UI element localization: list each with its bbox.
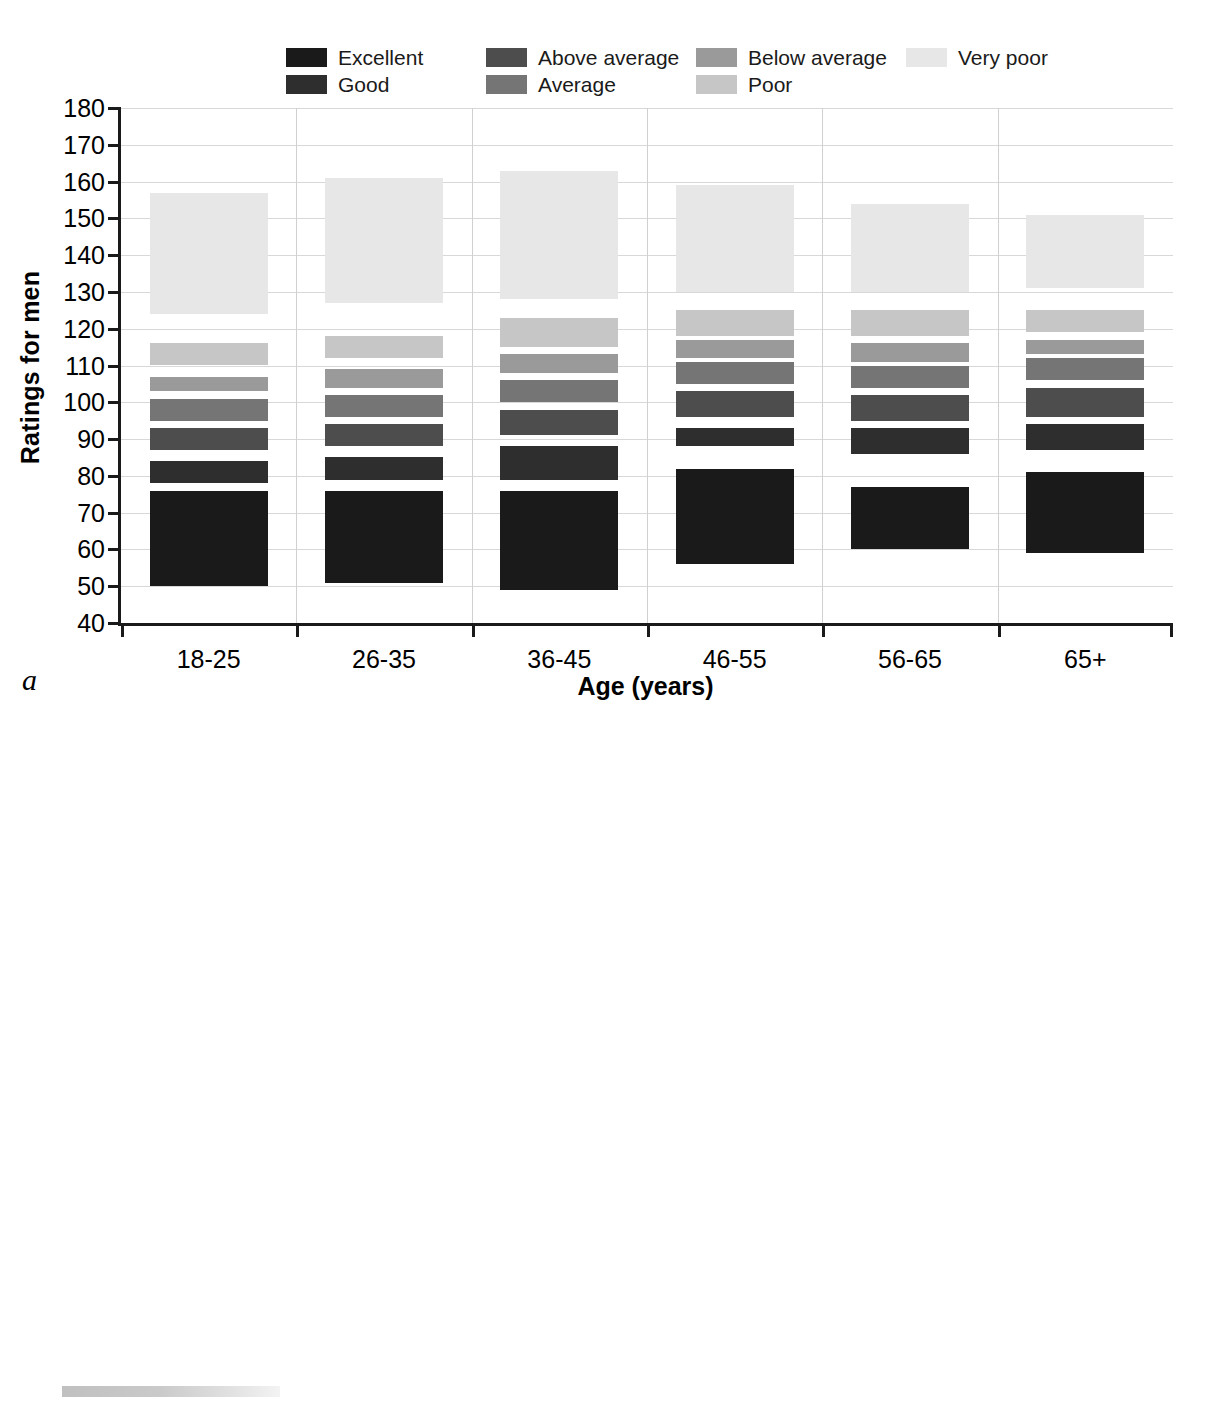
y-axis-tick-label: 60 [35,537,105,562]
x-gridline [647,108,648,623]
legend-swatch-icon [486,48,527,67]
legend-item-very-poor: Very poor [906,44,1106,71]
bar-segment [851,366,969,388]
plot-area-men: 4050607080901001101201301401501601701801… [118,108,1173,626]
legend-swatch-icon [286,75,327,94]
y-axis-tick [108,585,121,588]
legend-label: Below average [748,47,887,68]
bar-segment [676,428,794,446]
bar-segment [1026,340,1144,355]
y-axis-tick [108,328,121,331]
x-axis-tick-label: 26-35 [352,647,416,672]
bar-segment [150,491,268,587]
legend-item-average: Average [486,71,696,98]
bar-segment [1026,424,1144,450]
bar-segment [150,343,268,365]
x-axis-tick-label: 46-55 [703,647,767,672]
bar-segment [325,395,443,417]
y-axis-tick-label: 50 [35,574,105,599]
x-axis-tick [1170,623,1173,637]
y-axis-tick-label: 120 [35,316,105,341]
y-axis-tick-label: 110 [35,353,105,378]
legend-swatch-icon [486,75,527,94]
y-axis-tick-label: 80 [35,463,105,488]
bar-segment [500,380,618,402]
x-axis-title-men: Age (years) [118,672,1173,701]
x-axis-tick-label: 56-65 [878,647,942,672]
y-axis-tick-label: 100 [35,390,105,415]
chart-panel-men: ExcellentGoodAbove averageAverageBelow a… [0,0,1219,700]
bar-segment [851,487,969,550]
x-axis-tick [647,623,650,637]
y-axis-tick [108,107,121,110]
legend-label: Poor [748,74,792,95]
legend-men: ExcellentGoodAbove averageAverageBelow a… [286,44,1046,98]
bar-segment [500,410,618,436]
bar-segment [676,185,794,292]
bar-segment [500,491,618,590]
y-axis-tick [108,401,121,404]
y-axis-tick [108,217,121,220]
legend-swatch-icon [696,75,737,94]
bar-segment [676,310,794,336]
x-axis-tick [998,623,1001,637]
legend-item-above-average: Above average [486,44,696,71]
bar-segment [150,377,268,392]
bar-segment [500,354,618,372]
y-axis-tick-label: 90 [35,427,105,452]
bar-segment [1026,358,1144,380]
x-gridline [822,108,823,623]
chart-panel-women: ExcellentGoodAbove averageAverageBelow a… [0,700,1219,1406]
bar-segment [500,446,618,479]
y-axis-tick [108,512,121,515]
bar-segment [150,461,268,483]
legend-swatch-icon [696,48,737,67]
bar-segment [325,491,443,583]
y-axis-tick [108,548,121,551]
bar-segment [851,310,969,336]
bar-segment [1026,472,1144,553]
legend-label: Very poor [958,47,1048,68]
legend-item-below-average: Below average [696,44,906,71]
bar-segment [851,204,969,292]
x-gridline [296,108,297,623]
bar-segment [150,399,268,421]
y-axis-tick-label: 180 [35,96,105,121]
y-axis-tick [108,475,121,478]
legend-label: Good [338,74,389,95]
bar-segment [851,395,969,421]
x-axis-tick [822,623,825,637]
y-axis-tick [108,291,121,294]
y-axis-tick-label: 170 [35,132,105,157]
legend-label: Above average [538,47,679,68]
y-axis-tick [108,622,121,625]
x-axis-tick [472,623,475,637]
x-axis-tick [121,623,124,637]
legend-swatch-icon [906,48,947,67]
bar-segment [1026,388,1144,417]
bar-segment [500,318,618,347]
panel-letter-a: a [22,663,37,697]
legend-label: Average [538,74,616,95]
bar-segment [150,428,268,450]
legend-swatch-icon [286,48,327,67]
bar-segment [325,424,443,446]
y-axis-tick-label: 40 [35,611,105,636]
y-axis-tick-label: 130 [35,279,105,304]
legend-item-excellent: Excellent [286,44,486,71]
y-axis-tick [108,144,121,147]
bar-segment [851,428,969,454]
x-gridline [472,108,473,623]
bar-segment [676,340,794,358]
y-axis-tick-label: 70 [35,500,105,525]
y-axis-tick [108,181,121,184]
legend-grid: ExcellentGoodAbove averageAverageBelow a… [286,44,1046,98]
y-axis-tick-label: 150 [35,206,105,231]
y-axis-tick [108,438,121,441]
x-axis-tick-label: 36-45 [527,647,591,672]
legend-item-poor: Poor [696,71,906,98]
bar-segment [325,178,443,303]
y-axis-tick [108,365,121,368]
bar-segment [1026,215,1144,289]
y-axis-tick [108,254,121,257]
